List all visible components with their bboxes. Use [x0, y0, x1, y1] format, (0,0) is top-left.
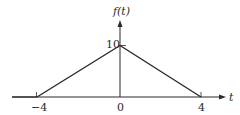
chart-svg: f(t) t 10 −4 0 4	[0, 0, 240, 115]
tick-label-4: 4	[198, 101, 205, 114]
tick-label-neg4: −4	[31, 101, 47, 114]
x-axis-label: t	[229, 91, 234, 104]
tick-label-0: 0	[117, 101, 124, 114]
x-axis-arrow-icon	[219, 95, 226, 100]
chart-figure: f(t) t 10 −4 0 4	[0, 0, 240, 115]
y-axis-label: f(t)	[112, 5, 130, 18]
data-line-f-t	[37, 46, 201, 98]
y-axis-arrow-icon	[118, 20, 123, 27]
peak-label: 10	[106, 38, 120, 51]
